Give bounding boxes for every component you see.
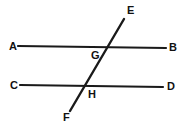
vertex-label-h: H — [88, 89, 96, 100]
vertex-label-d: D — [167, 81, 175, 92]
vertex-label-b: B — [169, 42, 177, 53]
vertex-label-f: F — [63, 112, 70, 123]
line-ef-transversal — [70, 19, 124, 111]
geometry-canvas — [0, 0, 184, 130]
geometry-diagram: A B C D E F G H — [0, 0, 184, 130]
vertex-label-c: C — [10, 80, 18, 91]
vertex-label-g: G — [91, 50, 100, 61]
line-ab — [18, 46, 166, 48]
vertex-label-a: A — [9, 41, 17, 52]
line-cd — [20, 85, 163, 87]
vertex-label-e: E — [127, 5, 134, 16]
